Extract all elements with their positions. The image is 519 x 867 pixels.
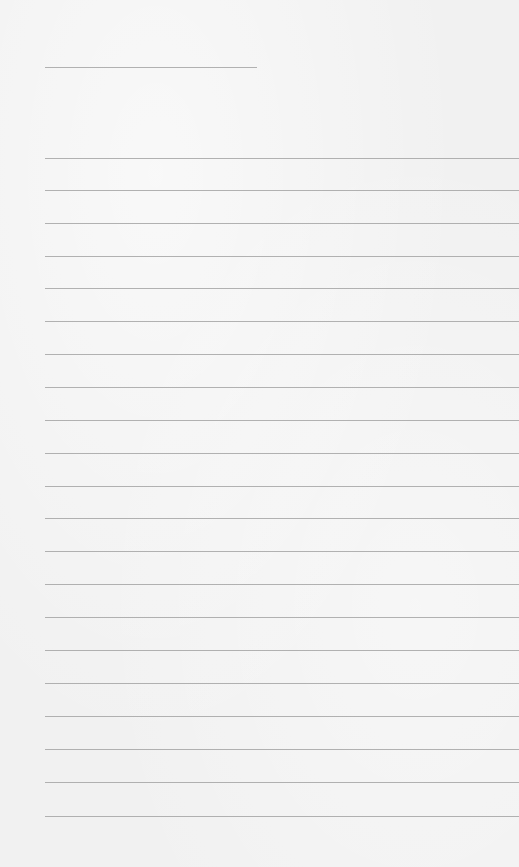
ruled-line [45, 551, 519, 552]
ruled-line [45, 782, 519, 783]
ruled-line [45, 354, 519, 355]
ruled-line [45, 486, 519, 487]
ruled-line [45, 223, 519, 224]
ruled-line [45, 158, 519, 159]
ruled-line [45, 650, 519, 651]
ruled-line [45, 584, 519, 585]
ruled-line [45, 190, 519, 191]
ruled-line [45, 617, 519, 618]
ruled-line [45, 321, 519, 322]
ruled-line [45, 453, 519, 454]
ruled-line [45, 420, 519, 421]
ruled-line [45, 518, 519, 519]
ruled-line [45, 387, 519, 388]
ruled-line [45, 256, 519, 257]
lined-paper-background [0, 0, 519, 867]
ruled-line [45, 716, 519, 717]
ruled-line [45, 683, 519, 684]
ruled-line [45, 816, 519, 817]
ruled-line [45, 749, 519, 750]
ruled-line [45, 288, 519, 289]
header-line [45, 67, 257, 68]
